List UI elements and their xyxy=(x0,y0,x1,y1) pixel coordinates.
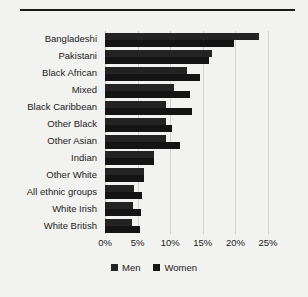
bar-women xyxy=(105,175,144,182)
x-axis-tick-label: 15% xyxy=(193,237,212,248)
bar-men xyxy=(105,168,144,175)
legend-label: Men xyxy=(122,262,140,273)
bar-group xyxy=(105,168,268,182)
legend-swatch-icon xyxy=(153,264,160,271)
y-axis-tick-label: Other White xyxy=(0,170,101,180)
legend-item[interactable]: Women xyxy=(153,262,197,273)
y-axis-tick-label: Black Caribbean xyxy=(0,102,101,112)
legend-item[interactable]: Men xyxy=(111,262,140,273)
bar-group xyxy=(105,101,268,115)
bar-group xyxy=(105,185,268,199)
y-axis-tick-label: Mixed xyxy=(0,85,101,95)
bar-group xyxy=(105,84,268,98)
bar-group xyxy=(105,151,268,165)
bar-women xyxy=(105,158,154,165)
bar-group xyxy=(105,202,268,216)
header-divider xyxy=(20,9,295,11)
y-axis-tick-label: Other Asian xyxy=(0,136,101,146)
bar-men xyxy=(105,202,133,209)
bar-men xyxy=(105,101,166,108)
x-axis-tick-label: 10% xyxy=(161,237,180,248)
gridline xyxy=(268,31,269,234)
bar-men xyxy=(105,135,166,142)
bar-men xyxy=(105,67,187,74)
x-axis-tick-label: 5% xyxy=(131,237,145,248)
bar-men xyxy=(105,151,154,158)
bar-women xyxy=(105,40,234,47)
bar-men xyxy=(105,185,134,192)
y-axis-tick-label: Other Black xyxy=(0,119,101,129)
bar-women xyxy=(105,192,142,199)
plot-area xyxy=(105,31,268,234)
chart-legend: MenWomen xyxy=(0,262,308,273)
y-axis-tick-label: Black African xyxy=(0,68,101,78)
bar-women xyxy=(105,209,141,216)
bar-women xyxy=(105,125,172,132)
y-axis-tick-label: Pakistani xyxy=(0,51,101,61)
bar-women xyxy=(105,91,190,98)
y-axis-tick-label: White Irish xyxy=(0,204,101,214)
bar-group xyxy=(105,33,268,47)
bar-women xyxy=(105,74,200,81)
x-axis-tick-label: 25% xyxy=(258,237,277,248)
bar-men xyxy=(105,84,174,91)
bar-women xyxy=(105,108,192,115)
y-axis-tick-label: White British xyxy=(0,221,101,231)
legend-label: Women xyxy=(164,262,197,273)
bar-group xyxy=(105,50,268,64)
bar-group xyxy=(105,135,268,149)
bar-men xyxy=(105,118,166,125)
bar-women xyxy=(105,226,140,233)
bar-men xyxy=(105,33,259,40)
y-axis-category-labels: Bangladeshi Pakistani Black African Mixe… xyxy=(0,31,101,234)
chart-figure: Bangladeshi Pakistani Black African Mixe… xyxy=(0,0,308,297)
legend-swatch-icon xyxy=(111,264,118,271)
bar-group xyxy=(105,67,268,81)
x-axis-tick-label: 20% xyxy=(226,237,245,248)
y-axis-tick-label: All ethnic groups xyxy=(0,187,101,197)
x-axis-tick-label: 0% xyxy=(98,237,112,248)
bar-women xyxy=(105,142,180,149)
bar-group xyxy=(105,118,268,132)
y-axis-tick-label: Indian xyxy=(0,153,101,163)
bar-men xyxy=(105,219,132,226)
x-axis-tick-labels: 0%5%10%15%20%25% xyxy=(105,237,268,251)
bar-men xyxy=(105,50,212,57)
bar-group xyxy=(105,219,268,233)
bar-women xyxy=(105,57,209,64)
y-axis-tick-label: Bangladeshi xyxy=(0,34,101,44)
